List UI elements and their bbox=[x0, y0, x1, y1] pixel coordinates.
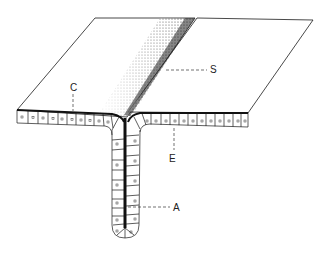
label-c: C bbox=[70, 83, 77, 93]
nuclei bbox=[21, 116, 246, 123]
label-e: E bbox=[169, 154, 176, 164]
tubular-gland bbox=[112, 118, 140, 238]
epithelial-invagination-diagram bbox=[0, 0, 326, 253]
label-s: S bbox=[210, 65, 217, 75]
label-a: A bbox=[173, 203, 180, 213]
